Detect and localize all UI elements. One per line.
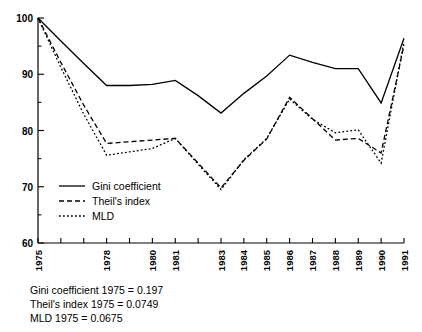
chart-series-group (38, 18, 404, 190)
y-tick-label: 60 (22, 238, 34, 249)
y-axis: 60708090100 (16, 13, 44, 249)
footnote-gini: Gini coefficient 1975 = 0.197 (30, 283, 410, 297)
x-tick-label: 1981 (170, 249, 181, 271)
x-tick-label: 1975 (33, 249, 44, 271)
x-tick-label: 1980 (147, 250, 158, 271)
x-tick-label: 1987 (307, 250, 318, 271)
x-tick-label: 1988 (330, 250, 341, 271)
x-tick-label: 1986 (284, 250, 295, 271)
footnote-mld: MLD 1975 = 0.0675 (30, 311, 410, 325)
x-tick-label: 1989 (353, 250, 364, 271)
y-tick-label: 100 (16, 13, 33, 24)
legend-label: Theil's index (92, 195, 151, 207)
legend-label: Gini coefficient (92, 180, 161, 192)
x-tick-label: 1984 (238, 249, 249, 271)
legend-label: MLD (92, 210, 115, 222)
x-tick-label: 1978 (101, 250, 112, 271)
y-tick-label: 70 (22, 182, 34, 193)
footnote-theil: Theil's index 1975 = 0.0749 (30, 297, 410, 311)
chart-legend: Gini coefficientTheil's indexMLD (59, 180, 161, 222)
y-tick-label: 90 (22, 69, 34, 80)
x-tick-label: 1983 (216, 250, 227, 271)
x-tick-label: 1991 (399, 249, 410, 271)
x-axis: 1975197819801981198319841985198619871988… (33, 238, 410, 271)
footnotes-block: Gini coefficient 1975 = 0.197 Theil's in… (30, 283, 410, 325)
x-tick-label: 1990 (376, 250, 387, 271)
y-tick-label: 80 (22, 126, 34, 137)
series-line-theil (38, 18, 404, 188)
x-tick-label: 1985 (261, 249, 272, 271)
series-line-gini (38, 18, 404, 113)
series-line-mld (38, 18, 404, 190)
